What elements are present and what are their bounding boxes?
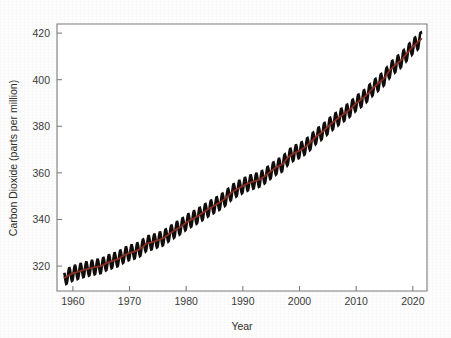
y-tick-label: 400 — [32, 74, 50, 86]
x-tick-label: 1970 — [118, 295, 142, 307]
x-tick-label: 1960 — [61, 295, 85, 307]
y-axis-title: Carbon Dioxide (parts per million) — [7, 80, 19, 236]
y-tick-label: 420 — [32, 27, 50, 39]
y-axis-tick-labels: 320340360380400420 — [32, 27, 50, 272]
plot-frame — [57, 24, 427, 291]
y-tick-label: 360 — [32, 167, 50, 179]
x-tick-label: 2010 — [344, 295, 368, 307]
x-axis-title: Year — [231, 320, 253, 332]
y-tick-label: 320 — [32, 260, 50, 272]
y-tick-label: 340 — [32, 213, 50, 225]
x-tick-label: 1980 — [175, 295, 199, 307]
x-tick-label: 2000 — [288, 295, 312, 307]
x-tick-label: 2020 — [401, 295, 425, 307]
chart-svg: 1960197019801990200020102020 32034036038… — [0, 0, 451, 338]
x-axis-tick-labels: 1960197019801990200020102020 — [61, 295, 424, 307]
co2-chart-figure: 1960197019801990200020102020 32034036038… — [0, 0, 451, 338]
plot-background — [57, 24, 427, 291]
y-tick-label: 380 — [32, 120, 50, 132]
x-tick-label: 1990 — [231, 295, 255, 307]
